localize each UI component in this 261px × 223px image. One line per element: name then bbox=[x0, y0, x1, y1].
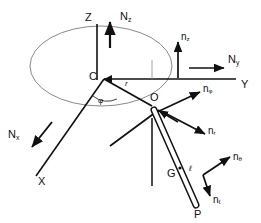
spherical-pendulum-diagram: Z Y X Nz Ny Nx nz nφ nr nθ nℓ C O G P r … bbox=[0, 0, 261, 223]
label-N-z-base: N bbox=[120, 10, 128, 22]
n-ell-arrow bbox=[203, 175, 210, 196]
label-N-z-sub: z bbox=[128, 16, 131, 23]
point-label-c: C bbox=[89, 71, 97, 82]
label-radius-r: r bbox=[125, 80, 128, 88]
label-n-theta-sub: θ bbox=[239, 155, 242, 162]
N-x-arrow bbox=[32, 122, 52, 147]
label-n-z-sub: z bbox=[187, 35, 190, 42]
pendulum-rod-inner bbox=[154, 110, 196, 205]
label-n-z: nz bbox=[181, 32, 190, 43]
axis-label-x: X bbox=[38, 176, 45, 187]
label-N-y-base: N bbox=[228, 53, 236, 65]
axis-label-y: Y bbox=[241, 79, 248, 90]
point-label-p: P bbox=[194, 209, 201, 220]
label-rod-length-ell: ℓ bbox=[189, 165, 192, 173]
label-n-phi: nφ bbox=[203, 84, 213, 95]
n-phi-arrow bbox=[155, 92, 200, 113]
label-N-y-sub: y bbox=[236, 59, 239, 66]
label-n-r-sub: r bbox=[214, 129, 216, 136]
axis-label-z: Z bbox=[85, 12, 92, 23]
point-label-g: G bbox=[167, 168, 176, 179]
label-n-theta: nθ bbox=[233, 152, 242, 163]
label-N-z: Nz bbox=[120, 11, 131, 23]
n-theta-arrow bbox=[203, 157, 230, 175]
label-n-ell-sub: ℓ bbox=[219, 198, 221, 205]
n-r-arrow bbox=[163, 112, 205, 134]
diagram-canvas bbox=[0, 0, 261, 223]
label-angle-phi: φ bbox=[98, 97, 103, 105]
point-label-o: O bbox=[150, 92, 159, 103]
phi-angle-arc bbox=[93, 96, 117, 101]
x-axis-line bbox=[36, 79, 104, 176]
label-n-r: nr bbox=[208, 126, 216, 137]
radius-line-c-o bbox=[104, 79, 152, 106]
label-N-x: Nx bbox=[8, 129, 19, 141]
pointer-line-lower-left bbox=[110, 112, 156, 146]
label-N-x-base: N bbox=[8, 128, 16, 140]
label-n-ell: nℓ bbox=[213, 195, 221, 206]
mass-center-dot bbox=[178, 166, 181, 169]
label-N-x-sub: x bbox=[16, 134, 19, 141]
label-N-y: Ny bbox=[228, 54, 239, 66]
label-n-phi-sub: φ bbox=[209, 87, 213, 94]
